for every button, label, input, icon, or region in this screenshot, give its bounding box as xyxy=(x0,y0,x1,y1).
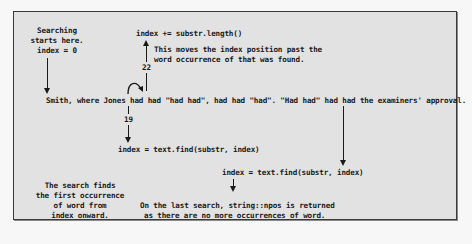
start-note-line-1: Searching xyxy=(22,26,92,36)
sentence-text: Smith, where Jones had had "had had", ha… xyxy=(46,96,466,106)
arrow-down-icon xyxy=(44,88,50,94)
search-note-line-1: The search finds xyxy=(30,181,130,191)
increment-note-line-1: This moves the index position past the xyxy=(154,45,322,55)
arrow-down-icon xyxy=(230,186,236,192)
find-arrow-line-upper xyxy=(128,106,129,114)
label-19: 19 xyxy=(124,115,133,125)
arrow-down-icon xyxy=(125,137,131,143)
find-call-1: index = text.find(substr, index) xyxy=(118,145,260,155)
search-note-line-3: of word from xyxy=(30,201,130,211)
increment-arrow-line-upper xyxy=(146,46,147,62)
npos-note-line-2: as there are no more occurrences of word… xyxy=(144,211,325,221)
find-call-2: index = text.find(substr, index) xyxy=(222,168,364,178)
last-search-arrow-line xyxy=(343,106,344,160)
curved-arrow-icon xyxy=(124,78,146,96)
search-note-line-2: the first occurrence xyxy=(30,191,130,201)
search-note-line-4: index onward. xyxy=(30,211,130,221)
start-note-line-2: starts here. xyxy=(22,36,92,46)
find-arrow-line-lower xyxy=(128,125,129,137)
increment-arrow-line-lower xyxy=(146,73,147,91)
npos-note-line-1: On the last search, string::npos is retu… xyxy=(140,201,335,211)
start-note-line-3: index = 0 xyxy=(22,46,92,56)
start-arrow-line xyxy=(47,58,48,88)
increment-note-line-2: word occurrence of that was found. xyxy=(154,55,304,65)
label-22: 22 xyxy=(142,63,151,73)
increment-code: index += substr.length() xyxy=(136,29,242,39)
arrow-down-icon xyxy=(340,160,346,166)
